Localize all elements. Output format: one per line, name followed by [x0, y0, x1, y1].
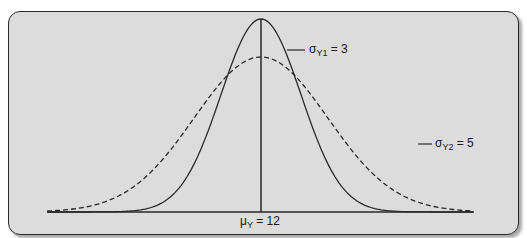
- normal-distribution-plot: [0, 0, 527, 238]
- label-mean: μY = 12: [240, 214, 280, 230]
- curve-sigma-5: [47, 57, 473, 211]
- label-sigma2: σY2 = 5: [435, 136, 474, 152]
- curve-sigma-3: [47, 19, 473, 212]
- label-sigma1: σY1 = 3: [309, 42, 348, 58]
